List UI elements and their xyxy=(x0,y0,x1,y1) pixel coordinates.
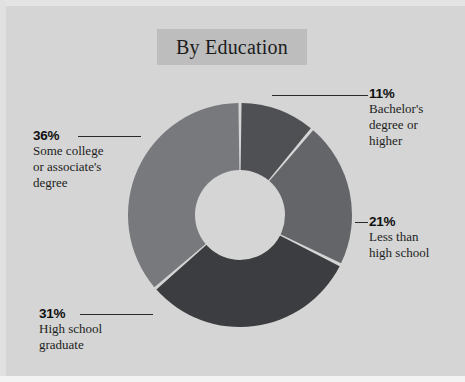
slice-desc-less-than-high-school-line2: high school xyxy=(369,245,464,261)
leader-line-bachelors xyxy=(272,95,368,96)
slice-desc-some-college-line3: degree xyxy=(33,175,143,191)
slice-value-some-college: 36% xyxy=(33,128,143,143)
slice-desc-less-than-high-school-line1: Less than xyxy=(369,229,464,245)
slice-desc-high-school-graduate-line1: High school xyxy=(39,321,154,337)
slice-desc-bachelors-line1: Bachelor's xyxy=(369,101,461,117)
chart-title: By Education xyxy=(176,36,288,59)
slice-desc-bachelors-line3: higher xyxy=(369,133,461,149)
slice-desc-high-school-graduate-line2: graduate xyxy=(39,337,154,353)
donut-chart xyxy=(125,85,355,345)
figure-edge-left xyxy=(0,0,6,382)
figure-edge-bottom xyxy=(0,376,465,382)
chart-figure: By Education 11% Bachelor's degree or hi… xyxy=(0,0,465,382)
slice-desc-some-college-line2: or associate's xyxy=(33,159,143,175)
leader-line-less-than-high-school xyxy=(355,222,368,223)
slice-value-bachelors: 11% xyxy=(369,86,461,101)
chart-title-box: By Education xyxy=(157,29,307,65)
slice-label-some-college: 36% Some college or associate's degree xyxy=(33,128,143,191)
slice-label-less-than-high-school: 21% Less than high school xyxy=(369,214,464,261)
figure-edge-top xyxy=(0,0,465,6)
slice-value-high-school-graduate: 31% xyxy=(39,306,154,321)
slice-desc-bachelors-line2: degree or xyxy=(369,117,461,133)
slice-desc-some-college-line1: Some college xyxy=(33,143,143,159)
slice-value-less-than-high-school: 21% xyxy=(369,214,464,229)
donut-center-hole xyxy=(195,170,285,260)
slice-label-high-school-graduate: 31% High school graduate xyxy=(39,306,154,353)
slice-label-bachelors: 11% Bachelor's degree or higher xyxy=(369,86,461,149)
